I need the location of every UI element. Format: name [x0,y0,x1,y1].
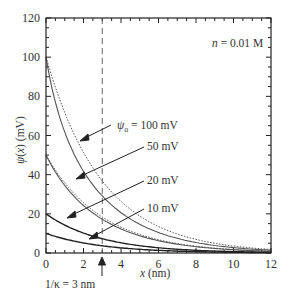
y-tick-label: 120 [22,11,40,25]
psi0-20-label: 20 mV [147,174,179,186]
y-tick-label: 0 [34,246,40,260]
arrow-head-icon [76,172,85,179]
arrow-head-icon [80,134,89,141]
plot-frame [46,18,271,253]
x-tick-label: 12 [265,257,277,271]
chart: 024681012020406080100120 n = 0.01 M ψo =… [0,0,288,299]
x-axis-title: x (nm) [139,267,171,280]
x-tick-label: 2 [81,257,87,271]
potential-curves [46,57,271,252]
psi0-50-label: 50 mV [147,140,179,152]
y-tick-label: 20 [28,207,40,221]
concentration-label: n = 0.01 M [212,37,263,49]
x-tick-label: 0 [43,257,49,271]
axis-ticks [46,18,271,253]
y-tick-label: 100 [22,50,40,64]
curve-psi0-100-solid [46,57,271,250]
x-tick-label: 8 [193,257,199,271]
curve-psi0-100-dotted [46,57,271,249]
y-axis-title: ψ(x) (mV) [14,116,27,164]
psi0-100-label: ψo = 100 mV [117,119,178,134]
up-arrow-icon [99,257,106,265]
arrow-head-icon [67,211,76,218]
x-tick-label: 4 [118,257,124,271]
y-tick-label: 40 [28,168,40,182]
x-tick-label: 10 [228,257,240,271]
debye-length-label: 1/κ = 3 nm [45,278,95,290]
psi0-10-label: 10 mV [147,202,179,214]
y-tick-label: 80 [28,89,40,103]
y-tick-label: 60 [28,129,40,143]
